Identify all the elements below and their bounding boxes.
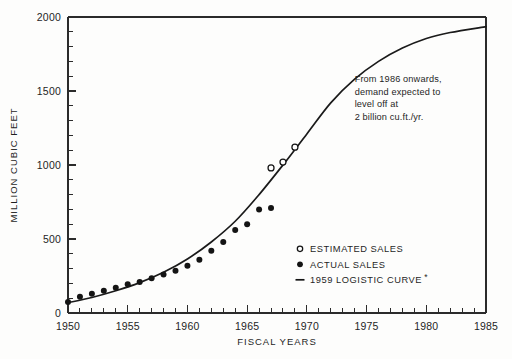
x-tick-label: 1985 bbox=[474, 320, 498, 332]
actual-sales-point bbox=[196, 257, 202, 263]
axis-frame bbox=[68, 17, 486, 313]
legend-filled-circle-icon bbox=[297, 261, 303, 267]
legend-label: ESTIMATED SALES bbox=[310, 244, 403, 254]
legend-footnote-marker: * bbox=[424, 272, 428, 282]
actual-sales-point bbox=[220, 239, 226, 245]
actual-sales-point bbox=[89, 291, 95, 297]
actual-sales-point bbox=[208, 248, 214, 254]
x-tick-label: 1960 bbox=[175, 320, 199, 332]
y-tick-label: 1000 bbox=[37, 159, 61, 171]
logistic-curve-path bbox=[68, 27, 486, 303]
actual-sales-point bbox=[244, 221, 250, 227]
y-axis-tick-labels: 0500100015002000 bbox=[37, 11, 61, 319]
legend-open-circle-icon bbox=[297, 246, 302, 251]
y-tick-label: 500 bbox=[43, 233, 61, 245]
legend-label: 1959 LOGISTIC CURVE bbox=[310, 275, 422, 285]
actual-sales-point bbox=[149, 275, 155, 281]
estimated-sales-point bbox=[280, 159, 286, 165]
estimated-sales-point bbox=[292, 144, 298, 150]
annotation-line: demand expected to bbox=[355, 87, 441, 97]
y-axis-title: MILLION CUBIC FEET bbox=[8, 107, 19, 222]
y-tick-label: 0 bbox=[55, 307, 61, 319]
actual-sales-point bbox=[137, 279, 143, 285]
x-tick-label: 1980 bbox=[414, 320, 438, 332]
actual-sales-point bbox=[256, 206, 262, 212]
x-tick-label: 1965 bbox=[235, 320, 259, 332]
y-tick-label: 2000 bbox=[37, 11, 61, 23]
figure-footnote bbox=[60, 352, 480, 359]
estimated-sales-points bbox=[268, 144, 298, 171]
actual-sales-point bbox=[101, 288, 107, 294]
chart-figure: 0500100015002000 19501955196019651970197… bbox=[0, 0, 512, 359]
y-tick-label: 1500 bbox=[37, 85, 61, 97]
chart-legend: ESTIMATED SALESACTUAL SALES1959 LOGISTIC… bbox=[296, 244, 429, 285]
x-axis-tick-labels: 19501955196019651970197519801985 bbox=[56, 320, 498, 332]
actual-sales-point bbox=[113, 285, 119, 291]
legend-label: ACTUAL SALES bbox=[310, 260, 386, 270]
actual-sales-point bbox=[65, 299, 71, 305]
estimated-sales-point bbox=[268, 165, 274, 171]
x-tick-label: 1975 bbox=[354, 320, 378, 332]
actual-sales-point bbox=[268, 205, 274, 211]
y-axis-ticks bbox=[68, 17, 76, 313]
actual-sales-points bbox=[65, 205, 274, 305]
annotation-line: 2 billion cu.ft./yr. bbox=[355, 112, 424, 122]
actual-sales-point bbox=[125, 281, 131, 287]
actual-sales-point bbox=[77, 294, 83, 300]
x-tick-label: 1955 bbox=[116, 320, 140, 332]
actual-sales-point bbox=[232, 227, 238, 233]
annotation-line: From 1986 onwards, bbox=[355, 74, 442, 84]
plateau-annotation: From 1986 onwards,demand expected toleve… bbox=[355, 74, 442, 122]
annotation-line: level off at bbox=[355, 99, 399, 109]
x-tick-label: 1950 bbox=[56, 320, 80, 332]
x-axis-ticks bbox=[68, 305, 486, 313]
x-tick-label: 1970 bbox=[295, 320, 319, 332]
logistic-demand-chart: 0500100015002000 19501955196019651970197… bbox=[0, 0, 512, 359]
x-axis-title: FISCAL YEARS bbox=[237, 336, 317, 347]
actual-sales-point bbox=[172, 268, 178, 274]
actual-sales-point bbox=[184, 263, 190, 269]
actual-sales-point bbox=[161, 272, 167, 278]
